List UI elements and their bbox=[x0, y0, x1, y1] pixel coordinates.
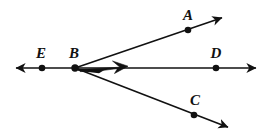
ray-B-to-A bbox=[75, 18, 222, 68]
ray-B-to-C bbox=[75, 68, 228, 127]
geometry-figure: E B D A C bbox=[0, 0, 271, 137]
point-D-dot bbox=[213, 65, 220, 72]
geometry-canvas: E B D A C bbox=[0, 0, 271, 137]
lines-group bbox=[16, 18, 256, 128]
point-label-A: A bbox=[182, 7, 193, 23]
point-label-C: C bbox=[190, 92, 201, 108]
point-B-dot bbox=[71, 64, 78, 71]
point-E-dot bbox=[39, 65, 46, 72]
labels-group: E B D A C bbox=[35, 7, 222, 108]
point-label-B: B bbox=[68, 45, 79, 61]
point-label-E: E bbox=[35, 45, 46, 61]
point-A-dot bbox=[185, 27, 192, 34]
point-C-dot bbox=[191, 112, 198, 119]
point-label-D: D bbox=[210, 45, 222, 61]
